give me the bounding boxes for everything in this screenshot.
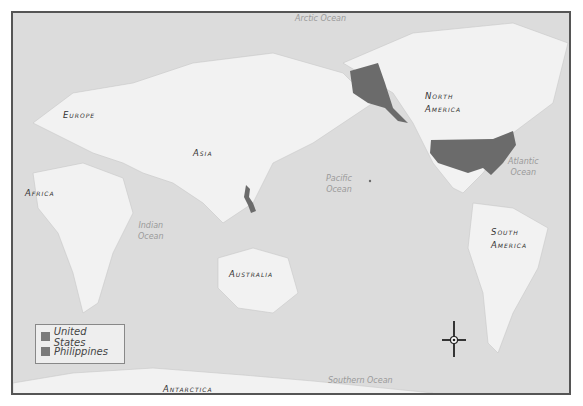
label-africa: Africa [25, 188, 55, 198]
label-indian-ocean: Indian Ocean [138, 220, 164, 242]
compass-rose-icon [439, 319, 469, 359]
legend-item-philippines: Philippines [41, 344, 119, 359]
label-asia: Asia [193, 148, 213, 158]
label-north-america: North America [425, 90, 461, 116]
legend-label: Philippines [54, 346, 108, 357]
label-antarctica: Antarctica [163, 384, 213, 394]
legend-swatch [41, 332, 50, 341]
label-australia: Australia [229, 269, 273, 279]
map-legend: United States Philippines [35, 324, 125, 364]
hawaii-highlight [369, 180, 371, 182]
label-south-america: South America [491, 226, 527, 252]
africa-land [33, 163, 133, 313]
legend-item-united-states: United States [41, 329, 119, 344]
label-europe: Europe [63, 110, 95, 120]
legend-swatch [41, 347, 50, 356]
australia-land [218, 248, 298, 313]
label-atlantic-ocean: Atlantic Ocean [508, 156, 539, 178]
label-pacific-ocean: Pacific Ocean [326, 173, 352, 195]
map-frame: Arctic Ocean Pacific Ocean Atlantic Ocea… [11, 11, 571, 395]
label-arctic-ocean: Arctic Ocean [295, 13, 346, 24]
label-southern-ocean: Southern Ocean [328, 375, 393, 386]
legend-label: United States [54, 326, 119, 348]
